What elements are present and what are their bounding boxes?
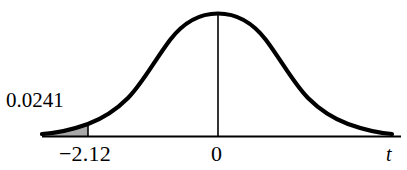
x-axis-tick-label-critical-value: −2.12 — [59, 143, 111, 165]
tail-area-label: 0.0241 — [6, 90, 64, 111]
x-axis-tick-label-zero: 0 — [211, 143, 222, 165]
x-axis-variable-label: t — [386, 144, 392, 164]
density-curve — [42, 14, 392, 135]
distribution-figure: 0.0241 −2.12 0 t — [0, 0, 407, 170]
